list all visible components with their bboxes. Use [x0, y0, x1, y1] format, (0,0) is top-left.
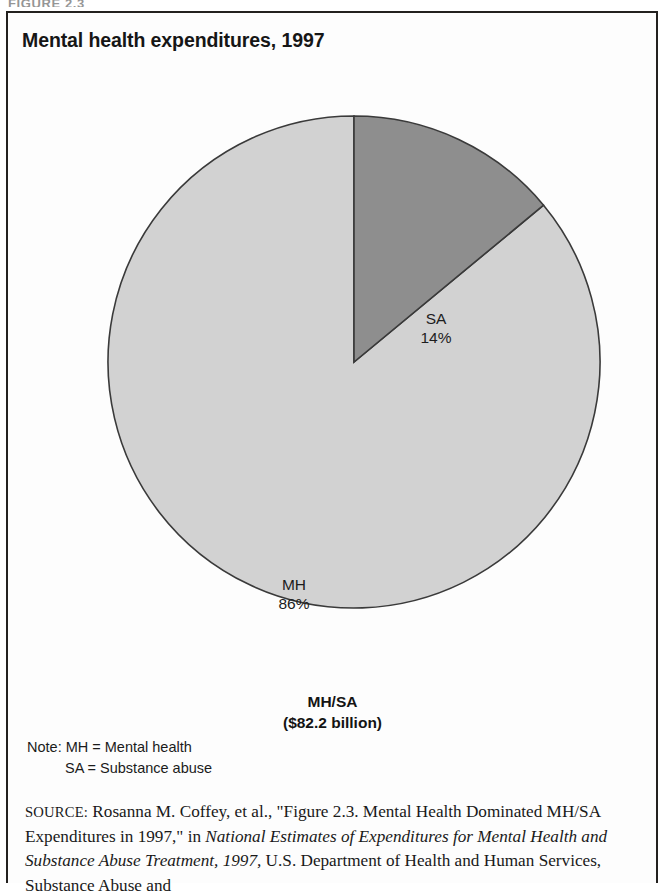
figure-note: Note: MH = Mental health SA = Substance … [27, 737, 212, 779]
pie-slice-sa-label: SA 14% [406, 309, 466, 347]
pie-slice-mh-name: MH [282, 576, 306, 593]
figure-number-label: FIGURE 2.3 [8, 0, 85, 7]
pie-slice-mh-value: 86% [278, 595, 309, 612]
pie-caption-line-2: ($82.2 billion) [0, 712, 665, 733]
pie-caption-line-1: MH/SA [0, 691, 665, 712]
source-label: SOURCE: [25, 804, 88, 820]
pie-slice-mh-label: MH 86% [264, 575, 324, 613]
pie-chart: SA 14% MH 86% [104, 112, 604, 612]
pie-chart-caption: MH/SA ($82.2 billion) [0, 691, 665, 733]
note-line-2: SA = Substance abuse [27, 758, 212, 779]
figure-source: SOURCE: Rosanna M. Coffey, et al., "Figu… [25, 800, 650, 894]
pie-chart-svg [104, 112, 604, 612]
page-title: Mental health expenditures, 1997 [22, 29, 324, 52]
pie-slice-sa-value: 14% [420, 329, 451, 346]
note-line-1: Note: MH = Mental health [27, 739, 192, 755]
pie-slice-sa-name: SA [426, 310, 447, 327]
